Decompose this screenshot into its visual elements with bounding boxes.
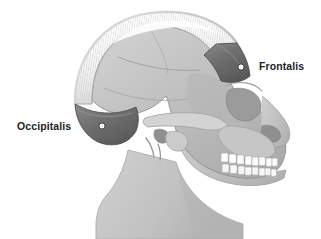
anatomy-figure: Frontalis Occipitalis (0, 0, 321, 239)
label-occipitalis: Occipitalis (17, 121, 71, 132)
occipitalis-marker (99, 123, 105, 129)
label-frontalis: Frontalis (259, 61, 304, 72)
frontalis-marker (238, 64, 244, 70)
